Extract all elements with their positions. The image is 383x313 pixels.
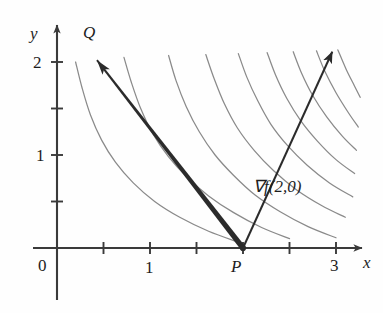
diagram-canvas	[0, 0, 383, 313]
x-axis-label: x	[363, 254, 371, 271]
level-curve	[267, 53, 354, 174]
y-axis-label: y	[30, 25, 38, 42]
y-tick-label-2: 2	[33, 54, 42, 71]
y-tick-label-1: 1	[36, 147, 45, 164]
x-tick-label-1: 1	[145, 259, 154, 276]
origin-label: 0	[38, 257, 47, 274]
level-curve	[124, 57, 290, 238]
vector-pq	[96, 60, 245, 250]
x-tick-label-3: 3	[330, 257, 339, 274]
point-markers-group	[240, 245, 246, 251]
gradient-vector-label: ∇f(2,0)	[253, 178, 301, 195]
level-curve	[238, 54, 352, 197]
level-curve	[316, 51, 358, 127]
point-q-label: Q	[83, 24, 95, 41]
gradient-vector	[243, 52, 332, 248]
point-marker-p	[240, 245, 246, 251]
point-p-label: P	[231, 258, 241, 275]
axes-group	[33, 25, 362, 300]
figure-root: y x 0 2 1 1 3 P Q ∇f(2,0)	[0, 0, 383, 313]
level-curve	[169, 55, 336, 237]
level-curve	[338, 50, 360, 97]
